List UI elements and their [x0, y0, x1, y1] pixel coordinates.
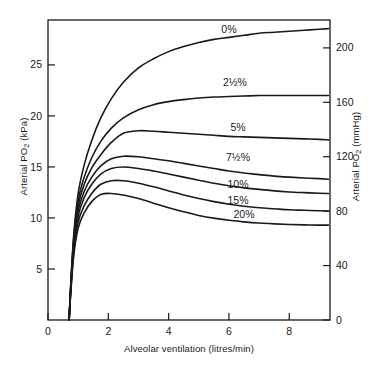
curve-label-75: 7½%: [226, 151, 250, 163]
curve-label-20: 20%: [234, 208, 255, 220]
y-axis-right-tick-label: 80: [336, 205, 348, 217]
y-axis-left-title-subscript: 2: [22, 144, 31, 148]
y-axis-right-title-post: (mmHg): [350, 112, 361, 150]
curve-label-25: 2½%: [223, 76, 247, 88]
y-axis-left-tick-label: 5: [36, 263, 42, 275]
y-axis-right-title-pre: Arterial PO: [350, 154, 361, 202]
x-axis-tick-label: 4: [166, 325, 172, 337]
curve-15: [69, 180, 328, 320]
curve-label-15: 15%: [228, 194, 249, 206]
y-axis-left-tick-label: 10: [30, 212, 42, 224]
y-axis-right-title: Arterial PO2 (mmHg): [350, 87, 363, 227]
curve-label-5: 5%: [230, 121, 245, 133]
x-axis-title: Alveolar ventilation (litres/min): [48, 343, 330, 354]
y-axis-left-title-pre: Arterial PO: [18, 148, 29, 196]
x-axis-tick-label: 8: [286, 325, 292, 337]
y-axis-right-tick-label: 200: [336, 41, 354, 53]
curve-group: 0%2½%5%7½%10%15%20%: [69, 23, 328, 320]
curve-label-0: 0%: [221, 23, 236, 35]
curve-5: [69, 131, 328, 320]
curve-20: [69, 193, 328, 320]
y-axis-left-tick-label: 15: [30, 161, 42, 173]
y-axis-left-tick-label: 25: [30, 58, 42, 70]
x-axis-tick-label: 6: [226, 325, 232, 337]
chart-plot-area: 51015202504080120160200024680%2½%5%7½%10…: [0, 0, 380, 365]
y-axis-left-title: Arterial PO2 (kPa): [18, 87, 31, 227]
x-axis-tick-label: 0: [45, 325, 51, 337]
curve-10: [69, 167, 328, 320]
curve-25: [69, 95, 328, 320]
curve-label-10: 10%: [228, 178, 249, 190]
y-axis-right-tick-label: 0: [336, 314, 342, 326]
y-axis-left-title-post: (kPa): [18, 118, 29, 144]
curve-0: [69, 29, 328, 320]
y-axis-right-tick-label: 40: [336, 259, 348, 271]
chart-figure: 51015202504080120160200024680%2½%5%7½%10…: [0, 0, 380, 365]
x-axis-tick-label: 2: [105, 325, 111, 337]
y-axis-right-title-subscript: 2: [354, 149, 363, 153]
y-axis-left-tick-label: 20: [30, 110, 42, 122]
